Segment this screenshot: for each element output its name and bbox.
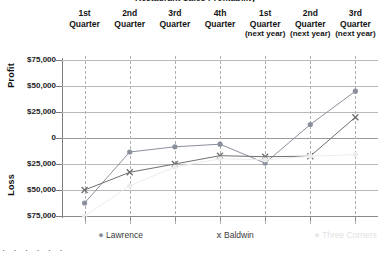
legend-item-lawrence[interactable]: ●Lawrence <box>96 228 143 241</box>
x-axis-tick <box>310 216 311 221</box>
legend-item-baldwin[interactable]: xBaldwin <box>214 228 254 241</box>
x-axis-category-label: 3rdQuarter(next year) <box>329 8 381 40</box>
y-axis-tick <box>56 138 62 139</box>
y-axis-tick <box>56 60 62 61</box>
y-axis-tick-label: 0 <box>2 134 56 142</box>
y-axis-tick-label: $25,000 <box>2 108 56 116</box>
x-axis-tick <box>355 216 356 221</box>
gridline-vertical <box>175 56 176 224</box>
legend-marker-circle-faint-icon: ● <box>312 229 322 241</box>
x-axis-tick <box>85 216 86 221</box>
bottom-decor-dots: · · · · · · <box>2 246 66 255</box>
legend-label-baldwin: Baldwin <box>224 230 254 240</box>
legend-label-three-corners: Three Corners <box>322 230 377 240</box>
x-axis-tick <box>175 216 176 221</box>
x-axis-tick <box>220 216 221 221</box>
y-axis-tick-label: $75,000 <box>2 212 56 220</box>
y-axis-tick <box>56 86 62 87</box>
gridline-vertical <box>85 56 86 224</box>
y-axis-tick <box>56 190 62 191</box>
x-axis-tick <box>265 216 266 221</box>
y-axis-lower-label: Loss <box>6 174 16 196</box>
gridline-vertical <box>310 56 311 224</box>
gridline-vertical <box>130 56 131 224</box>
y-axis-tick <box>56 164 62 165</box>
plot-area <box>62 60 378 216</box>
legend-item-three-corners[interactable]: ●Three Corners <box>312 228 377 241</box>
y-axis-tick <box>56 216 62 217</box>
legend-marker-circle-icon: ● <box>96 229 106 241</box>
legend-label-lawrence: Lawrence <box>106 230 143 240</box>
chart-title: Restaurant Sales Profitability <box>0 0 391 2</box>
y-axis-tick <box>56 112 62 113</box>
chart-legend: ●Lawrence xBaldwin ●Three Corners <box>62 228 378 242</box>
gridline-vertical <box>355 56 356 224</box>
y-axis-tick-label: $25,000 <box>2 160 56 168</box>
gridline-vertical <box>265 56 266 224</box>
gridline-vertical <box>220 56 221 224</box>
legend-marker-x-icon: x <box>214 229 224 241</box>
chart-container: Restaurant Sales Profitability $75,000$5… <box>0 0 391 256</box>
y-axis-upper-label: Profit <box>6 63 16 88</box>
x-axis-tick <box>130 216 131 221</box>
y-axis-labels: $75,000$50,000$25,0000$25,000$50,000$75,… <box>0 0 56 256</box>
